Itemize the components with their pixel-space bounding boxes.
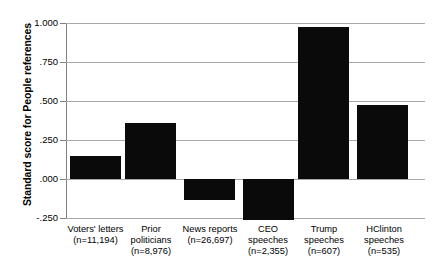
bar-hclinton-speeches (357, 105, 408, 179)
y-tick-label: .250 (20, 135, 58, 145)
y-tick-label: .500 (20, 96, 58, 106)
gridline (66, 23, 425, 24)
bar-ceo-speeches (243, 179, 294, 220)
gridline (66, 62, 425, 63)
x-label-line: (n=535) (349, 246, 419, 257)
plot-area (66, 23, 425, 218)
x-label-line: (n=607) (291, 246, 357, 257)
x-label-hclinton-speeches: HClinton speeches (n=535) (349, 224, 419, 258)
bar-news-reports (184, 179, 235, 200)
x-label-line: speeches (349, 235, 419, 246)
gridline (66, 101, 425, 102)
y-tick-label: -.250 (20, 213, 58, 223)
y-tick-label: .000 (20, 174, 58, 184)
y-tick-label: .750 (20, 57, 58, 67)
bar-trump-speeches (298, 27, 349, 179)
x-label-line: Trump (291, 224, 357, 235)
x-label-line: HClinton (349, 224, 419, 235)
y-axis-tick-labels: 1.000 .750 .500 .250 .000 -.250 (18, 0, 58, 269)
bar-chart: Standard score for People references 1.0… (0, 0, 440, 269)
x-label-line: (n=8,976) (117, 246, 185, 257)
bar-voters-letters (70, 156, 121, 179)
x-axis-labels: Voters' letters (n=11,194) Prior politic… (66, 224, 425, 269)
y-tick-label: 1.000 (20, 18, 58, 28)
bar-prior-politicians (125, 123, 176, 179)
x-label-line: speeches (291, 235, 357, 246)
x-label-trump-speeches: Trump speeches (n=607) (291, 224, 357, 258)
